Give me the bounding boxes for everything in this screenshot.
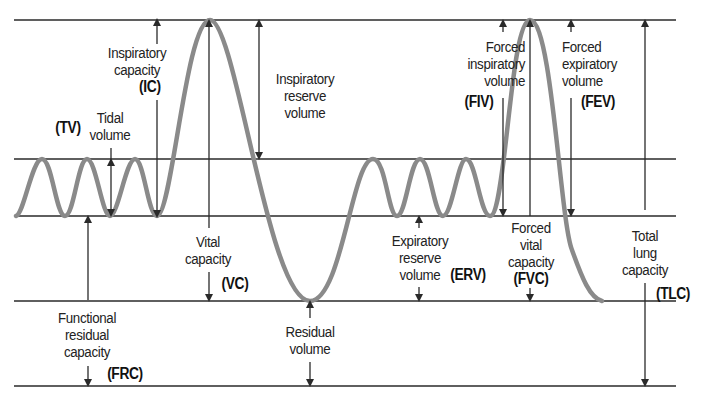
fev-label: Forced expiratory volume — [562, 38, 634, 89]
ic-label-line-1: Inspiratory — [90, 44, 185, 61]
vc-label-line-1: Vital — [177, 233, 239, 250]
vc-abbr: (VC) — [218, 275, 252, 292]
fvc-label-line-3: capacity — [501, 253, 561, 270]
fiv-abbr: (FIV) — [458, 93, 499, 110]
vc-label: Vital capacity — [177, 233, 239, 267]
fev-label-line-1: Forced — [562, 38, 634, 55]
frc-label-line-3: capacity — [47, 343, 128, 360]
erv-abbr: (ERV) — [447, 266, 490, 283]
fvc-abbr: (FVC) — [501, 270, 561, 287]
fiv-label-line-2: inspiratory — [453, 55, 525, 72]
ic-label: Inspiratory capacity (IC) — [90, 44, 185, 95]
fev-abbr: (FEV) — [577, 93, 618, 110]
fiv-label-line-1: Forced — [453, 38, 525, 55]
tv-label-line-1: Tidal — [84, 109, 136, 126]
erv-label-line-2: reserve — [384, 249, 456, 266]
rv-label-line-1: Residual — [277, 323, 342, 340]
tlc-abbr: (TLC) — [652, 285, 695, 302]
frc-label-line-1: Functional — [47, 309, 128, 326]
ic-abbr: (IC) — [90, 78, 185, 95]
erv-label-line-3: volume — [384, 266, 456, 283]
erv-label-line-1: Expiratory — [384, 232, 456, 249]
fev-label-line-2: expiratory — [562, 55, 634, 72]
tlc-label-line-2: lung — [615, 244, 675, 261]
tlc-label-line-3: capacity — [615, 261, 675, 278]
fev-label-line-3: volume — [562, 72, 634, 89]
frc-abbr: (FRC) — [104, 365, 147, 382]
tv-abbr: (TV) — [51, 119, 85, 136]
frc-label: Functional residual capacity — [47, 309, 128, 360]
fvc-label-line-1: Forced — [501, 219, 561, 236]
tlc-label: Total lung capacity — [615, 227, 675, 278]
irv-label: Inspiratory reserve volume — [262, 70, 348, 121]
irv-label-line-1: Inspiratory — [262, 70, 348, 87]
ic-label-line-2: capacity — [90, 61, 185, 78]
irv-label-line-2: reserve — [262, 87, 348, 104]
tlc-label-line-1: Total — [615, 227, 675, 244]
rv-label-line-2: volume — [277, 340, 342, 357]
fvc-label-line-2: vital — [501, 236, 561, 253]
frc-label-line-2: residual — [47, 326, 128, 343]
rv-label: Residual volume — [277, 323, 342, 357]
erv-label: Expiratory reserve volume — [384, 232, 456, 283]
tv-label: Tidal volume — [84, 109, 136, 143]
fiv-label-line-3: volume — [453, 72, 525, 89]
fvc-label: Forced vital capacity (FVC) — [501, 219, 561, 287]
fiv-label: Forced inspiratory volume — [453, 38, 525, 89]
tv-label-line-2: volume — [84, 126, 136, 143]
vc-label-line-2: capacity — [177, 250, 239, 267]
irv-label-line-3: volume — [262, 104, 348, 121]
